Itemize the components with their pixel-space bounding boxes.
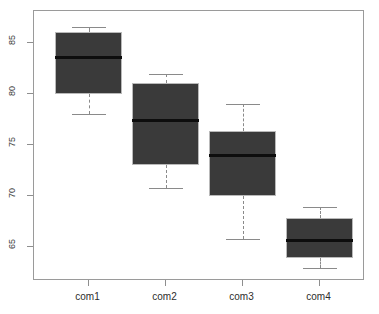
x-axis-tick-mark: [319, 280, 320, 286]
box-com3: [209, 131, 276, 197]
whisker-cap-lower-com2: [149, 188, 183, 189]
y-axis-tick-label-text: 75: [7, 137, 17, 147]
whisker-cap-upper-com1: [72, 27, 106, 28]
x-axis-tick-mark: [242, 280, 243, 286]
whisker-lower-com4: [320, 258, 321, 268]
y-axis-tick-label: 75: [0, 137, 24, 147]
whisker-upper-com3: [243, 104, 244, 131]
boxplot-figure: 6570758085com1com2com3com4: [0, 0, 379, 314]
whisker-cap-lower-com3: [226, 239, 260, 240]
y-axis-tick-label-text: 70: [7, 188, 17, 198]
whisker-upper-com2: [166, 74, 167, 83]
plot-frame: [33, 10, 364, 280]
whisker-lower-com1: [89, 94, 90, 114]
whisker-lower-com2: [166, 165, 167, 188]
box-com4: [286, 218, 353, 258]
x-axis-tick-label-com2: com2: [130, 291, 200, 302]
y-axis-tick-label: 80: [0, 86, 24, 96]
y-axis-tick-label-text: 85: [7, 34, 17, 44]
whisker-upper-com4: [320, 207, 321, 217]
whisker-cap-lower-com1: [72, 114, 106, 115]
x-axis-tick-label-com1: com1: [53, 291, 123, 302]
whisker-cap-upper-com3: [226, 104, 260, 105]
y-axis-tick-label-text: 80: [7, 86, 17, 96]
median-line-com3: [209, 154, 276, 157]
y-axis-tick-label: 70: [0, 188, 24, 198]
box-com1: [55, 32, 122, 93]
whisker-cap-lower-com4: [303, 268, 337, 269]
whisker-cap-upper-com2: [149, 74, 183, 75]
x-axis-tick-label-com3: com3: [207, 291, 277, 302]
box-com2: [132, 83, 199, 165]
whisker-lower-com3: [243, 196, 244, 239]
x-axis-tick-label-com4: com4: [284, 291, 354, 302]
x-axis-tick-mark: [165, 280, 166, 286]
y-axis-tick-label: 65: [0, 239, 24, 249]
median-line-com4: [286, 239, 353, 242]
whisker-cap-upper-com4: [303, 207, 337, 208]
y-axis-tick-label: 85: [0, 35, 24, 45]
median-line-com2: [132, 119, 199, 122]
median-line-com1: [55, 56, 122, 59]
y-axis-tick-label-text: 65: [7, 239, 17, 249]
x-axis-tick-mark: [88, 280, 89, 286]
